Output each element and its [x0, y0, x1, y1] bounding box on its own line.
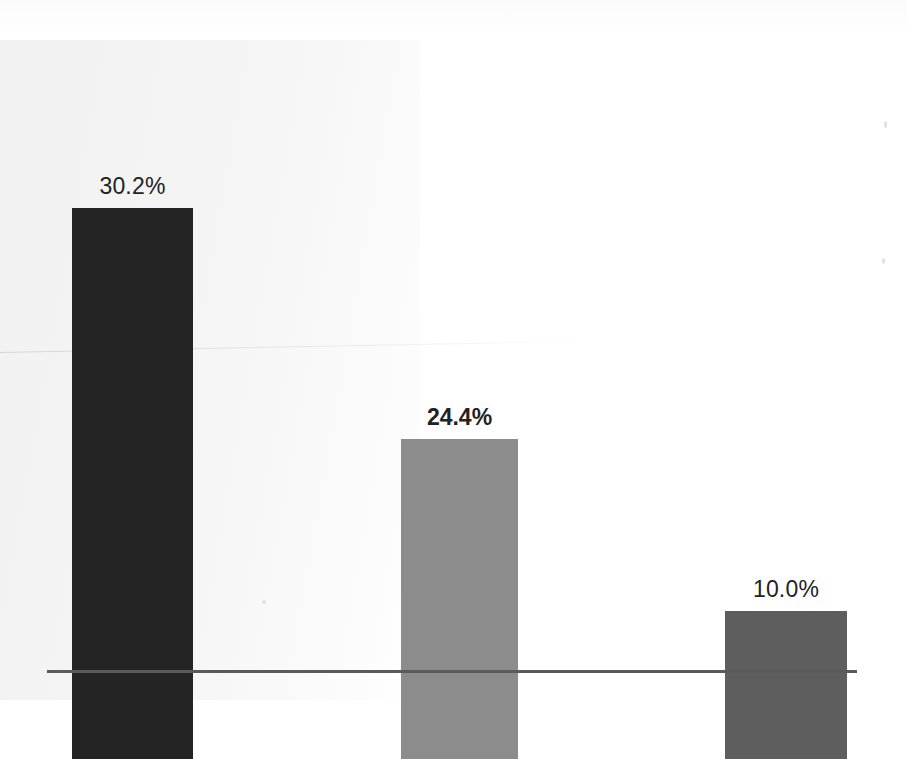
- bar-rect[interactable]: [72, 208, 193, 759]
- bar-value-label: 30.2%: [99, 173, 165, 200]
- bar-group-non-hispanic-white-alone[interactable]: 30.2% Non-Hispanic White Alone: [72, 87, 193, 759]
- chart-page: 30.2% Non-Hispanic White Alone 24.4% Bla…: [0, 0, 907, 759]
- bar-chart-plot-area: 30.2% Non-Hispanic White Alone 24.4% Bla…: [0, 0, 907, 759]
- bar-group-hispanic[interactable]: 10.0% Hispanic: [725, 87, 847, 759]
- bar-rect[interactable]: [401, 439, 518, 759]
- bar-value-label: 10.0%: [753, 576, 819, 603]
- bar-value-label: 24.4%: [427, 404, 492, 431]
- x-axis-line: [47, 670, 857, 673]
- bar-group-black-alone[interactable]: 24.4% Black Alone: [401, 87, 518, 759]
- bar-rect[interactable]: [725, 611, 847, 759]
